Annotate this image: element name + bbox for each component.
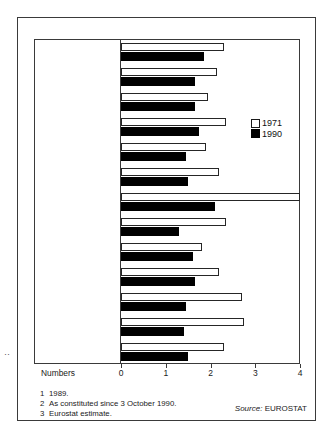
bar-pair [121, 39, 300, 64]
footnote-number: 1 [40, 389, 49, 399]
axis-tick-label: 3 [253, 368, 258, 378]
bar-1990 [121, 202, 215, 210]
bar-1990 [121, 127, 199, 135]
bar-pair [121, 189, 300, 214]
bar-1990 [121, 102, 195, 110]
bar-1990 [121, 302, 186, 310]
bar-1990 [121, 152, 186, 160]
bar-1971 [121, 268, 219, 276]
bar-pair [121, 214, 300, 239]
footnote-text: As constituted since 3 October 1990. [49, 399, 176, 408]
footnote-row: 11989. [40, 389, 310, 399]
bar-1990 [121, 352, 188, 360]
legend-label-1990: 1990 [262, 129, 282, 140]
legend-swatch-1971-icon [251, 119, 260, 128]
bar-1990 [121, 177, 188, 185]
bar-1971 [121, 218, 226, 226]
plot-area: United Kingdom1BelgiumDenmarkFranceGerma… [34, 39, 300, 364]
axis-tick-label: 4 [298, 368, 303, 378]
legend-label-1971: 1971 [262, 118, 282, 129]
legend-item-1990: 1990 [251, 129, 282, 140]
bar-pair [121, 339, 300, 364]
bar-1971 [121, 168, 219, 176]
left-edge-artifact-glyph: ·· [4, 352, 7, 356]
chart-legend: 1971 1990 [249, 117, 284, 140]
bar-1971 [121, 243, 202, 251]
bar-1971 [121, 143, 206, 151]
bar-1971 [121, 93, 208, 101]
bar-1990 [121, 52, 204, 60]
bar-1971 [121, 293, 242, 301]
bar-pair [121, 264, 300, 289]
bar-1971 [121, 43, 224, 51]
bar-1971 [121, 118, 226, 126]
chart-figure: United Kingdom1BelgiumDenmarkFranceGerma… [17, 17, 316, 421]
bar-1971 [121, 193, 300, 201]
bar-1971 [121, 343, 224, 351]
axis-tick-label: 0 [119, 368, 124, 378]
source-prefix: Source: [235, 404, 263, 413]
x-axis-title: Numbers [41, 368, 75, 378]
axis-tick-label: 1 [163, 368, 168, 378]
left-edge-artifact: ·· [4, 352, 7, 361]
bar-1971 [121, 318, 244, 326]
footnote-number: 3 [40, 409, 49, 419]
axis-tick-label: 2 [208, 368, 213, 378]
bar-pair [121, 89, 300, 114]
source-value: EUROSTAT [265, 404, 307, 413]
bar-pair [121, 164, 300, 189]
source-credit: Source: EUROSTAT [235, 404, 307, 413]
bar-1990 [121, 77, 195, 85]
legend-swatch-1990-icon [251, 129, 260, 138]
bar-pair [121, 139, 300, 164]
bar-pair [121, 289, 300, 314]
bar-1990 [121, 277, 195, 285]
footnote-text: 1989. [49, 389, 69, 398]
bar-1971 [121, 68, 217, 76]
bar-1990 [121, 227, 179, 235]
category-label-column [34, 39, 121, 364]
footnote-text: Eurostat estimate. [49, 409, 112, 418]
bar-1990 [121, 252, 193, 260]
bar-pair [121, 314, 300, 339]
bar-pair [121, 239, 300, 264]
bar-1990 [121, 327, 184, 335]
bar-pair [121, 64, 300, 89]
footnote-number: 2 [40, 399, 49, 409]
legend-item-1971: 1971 [251, 118, 282, 129]
